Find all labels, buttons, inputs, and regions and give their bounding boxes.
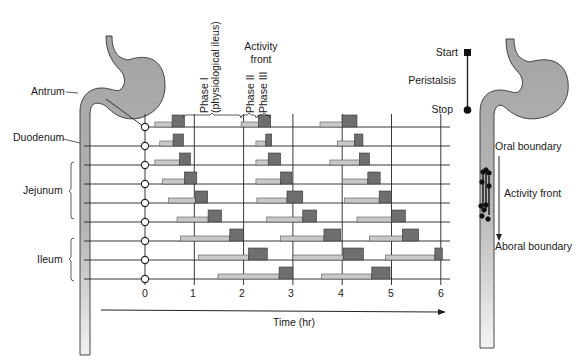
phase3-bar xyxy=(402,229,418,241)
recording-site-circle xyxy=(141,237,148,244)
phase2-bar xyxy=(281,236,324,241)
phase3-bar xyxy=(303,210,317,222)
label-oral-boundary: Oral boundary xyxy=(495,140,562,152)
phase2-bar xyxy=(155,160,180,165)
phase3-bar xyxy=(180,153,191,165)
legend-peristalsis: Peristalsis xyxy=(408,74,456,86)
phase2-bar xyxy=(257,198,287,203)
left-stomach-illustration xyxy=(80,36,165,355)
tick-0: 0 xyxy=(142,287,148,299)
mmc-diagram: Antrum Duodenum Jejunum Ileum 0 1 2 3 4 … xyxy=(0,0,586,360)
label-antrum: Antrum xyxy=(31,85,65,97)
phase2-bar xyxy=(256,141,266,146)
right-anatomy-labels: Oral boundary Activity front Aboral boun… xyxy=(495,140,573,252)
phase2-bar xyxy=(337,141,354,146)
label-jejunum: Jejunum xyxy=(23,184,63,196)
legend-stop: Stop xyxy=(431,103,453,115)
phase3-bar xyxy=(268,153,280,165)
ileum-brace xyxy=(69,238,74,281)
legend-start: Start xyxy=(436,46,458,58)
phase-annotations: Phase I (physiological ileus) Activity f… xyxy=(183,21,278,118)
peristalsis-legend: Start Peristalsis Stop xyxy=(408,46,471,115)
x-axis-label: Time (hr) xyxy=(273,316,315,328)
phase3-bar xyxy=(435,248,442,260)
phase2-bar xyxy=(267,217,303,222)
phase2-bar xyxy=(345,198,380,203)
phase3-bar xyxy=(279,267,293,279)
phase3-bar xyxy=(359,153,369,165)
phase2-bar xyxy=(177,217,208,222)
tick-2: 2 xyxy=(239,287,245,299)
jejunum-brace xyxy=(69,162,74,219)
label-activity-front: Activity xyxy=(244,40,278,52)
tick-3: 3 xyxy=(288,287,294,299)
label-phase2: Phase II xyxy=(244,74,256,113)
recording-site-circle xyxy=(141,256,148,263)
tick-1: 1 xyxy=(190,287,196,299)
phase-bars xyxy=(155,115,442,279)
phase2-bar xyxy=(160,141,173,146)
phase2-bar xyxy=(330,160,360,165)
phase2-bar xyxy=(162,179,184,184)
recording-site-circle xyxy=(141,199,148,206)
stop-dot-icon xyxy=(464,106,472,114)
phase2-bar xyxy=(169,198,196,203)
phase3-bar xyxy=(173,134,183,146)
phase3-bar xyxy=(372,267,390,279)
tick-4: 4 xyxy=(338,287,344,299)
phase3-bar xyxy=(392,210,406,222)
phase3-bar xyxy=(368,172,380,184)
recording-site-circle xyxy=(141,218,148,225)
phase2-bar xyxy=(198,255,248,260)
phase2-bar xyxy=(256,160,268,165)
label-aboral-boundary: Aboral boundary xyxy=(495,240,573,252)
recording-site-circle xyxy=(141,161,148,168)
recording-site-circle xyxy=(141,123,148,130)
phase2-bar xyxy=(256,179,281,184)
phase2-bar xyxy=(241,122,258,127)
phase2-bar xyxy=(180,236,229,241)
phase3-bar xyxy=(208,210,221,222)
phase3-bar xyxy=(230,229,244,241)
phase3-bar xyxy=(195,191,207,203)
phase2-bar xyxy=(155,122,172,127)
phase3-bar xyxy=(324,229,341,241)
start-square-icon xyxy=(464,49,471,56)
label-activity-front-2: front xyxy=(250,53,271,65)
phase3-bar xyxy=(342,115,357,127)
phase3-bar xyxy=(266,134,272,146)
phase2-bar xyxy=(386,255,435,260)
recording-site-markers xyxy=(141,123,148,282)
recording-site-circle xyxy=(141,142,148,149)
phase3-bar xyxy=(343,248,363,260)
phase2-bar xyxy=(320,122,342,127)
label-activity-front-right: Activity front xyxy=(504,187,561,199)
tick-6: 6 xyxy=(438,287,444,299)
recording-site-circle xyxy=(141,275,148,282)
x-axis-ticks: 0 1 2 3 4 5 6 xyxy=(142,287,444,299)
phase2-bar xyxy=(342,179,368,184)
phase2-bar xyxy=(321,274,371,279)
phase3-bar xyxy=(184,172,196,184)
phase3-bar xyxy=(281,172,292,184)
phase3-bar xyxy=(258,115,270,127)
phase3-bar xyxy=(287,191,303,203)
label-phase1-sub: (physiological ileus) xyxy=(209,21,221,113)
phase3-bar xyxy=(172,115,184,127)
phase3-bar xyxy=(379,191,391,203)
label-phase3: Phase III xyxy=(257,72,269,113)
phase3-bar xyxy=(355,134,363,146)
label-ileum: Ileum xyxy=(37,253,63,265)
phase2-bar xyxy=(357,217,392,222)
phase2-bar xyxy=(218,274,279,279)
tick-5: 5 xyxy=(388,287,394,299)
phase3-bar xyxy=(249,248,268,260)
recording-site-circle xyxy=(141,180,148,187)
label-duodenum: Duodenum xyxy=(13,131,65,143)
phase2-bar xyxy=(369,236,402,241)
phase2-bar xyxy=(293,255,343,260)
left-anatomy-labels: Antrum Duodenum Jejunum Ileum xyxy=(13,85,80,281)
time-axis-arrow: Time (hr) xyxy=(101,309,446,328)
